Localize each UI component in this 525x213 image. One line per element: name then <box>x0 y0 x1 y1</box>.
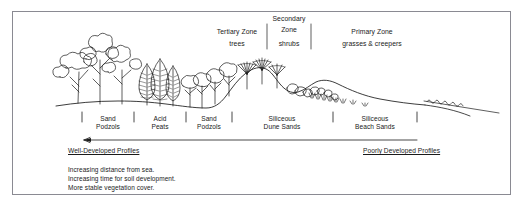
beach-slope-line <box>425 105 470 116</box>
soil-label-acid-peats-line2: Peats <box>151 123 168 131</box>
soil-label-siliceous-dune-sands-line1: Siliceous <box>269 115 296 123</box>
soil-label-siliceous-dune-sands-line2: Dune Sands <box>264 123 301 131</box>
note-line-2: Increasing time for soil development. <box>68 174 176 183</box>
zone-subtitle-primary: grasses & creepers <box>342 39 401 48</box>
caption-poorly-developed-profiles: Poorly Developed Profiles <box>363 147 440 155</box>
soil-label-sand-podzols-2-line2: Podzols <box>197 123 221 131</box>
zone-title-tertiary: Tertiary Zone <box>217 27 257 36</box>
development-gradient-arrow <box>84 137 417 142</box>
grass-tuft-row-primary <box>309 93 368 106</box>
soil-label-sand-podzols-1-line1: Sand <box>100 115 116 123</box>
shrub-clumps-secondary <box>287 84 338 100</box>
zone-subtitle-secondary: shrubs <box>279 39 300 48</box>
ground-profile-line <box>56 68 425 108</box>
note-line-3: More stable vegetation cover. <box>68 183 154 192</box>
zone-title-secondary-line2: Zone <box>281 25 297 34</box>
caption-well-developed-profiles: Well-Developed Profiles <box>68 147 139 155</box>
soil-label-sand-podzols-2-line1: Sand <box>201 115 217 123</box>
soil-label-siliceous-beach-sands-line1: Siliceous <box>362 115 389 123</box>
zone-subtitle-tertiary: trees <box>229 39 244 48</box>
broadleaf-tree-cluster-left <box>53 33 142 104</box>
note-line-1: Increasing distance from sea. <box>68 165 154 174</box>
conifer-cluster-acid-peats <box>139 59 180 106</box>
rounded-tree-cluster-mid <box>181 63 237 108</box>
zone-title-secondary-line1: Secondary <box>273 14 306 23</box>
zone-title-primary: Primary Zone <box>351 27 392 36</box>
figure-root: Tertiary Zone trees Secondary Zone shrub… <box>0 0 525 213</box>
soil-label-acid-peats-line1: Acid <box>153 115 166 123</box>
soil-label-sand-podzols-1-line2: Podzols <box>96 123 120 131</box>
soil-label-siliceous-beach-sands-line2: Beach Sands <box>355 123 395 131</box>
